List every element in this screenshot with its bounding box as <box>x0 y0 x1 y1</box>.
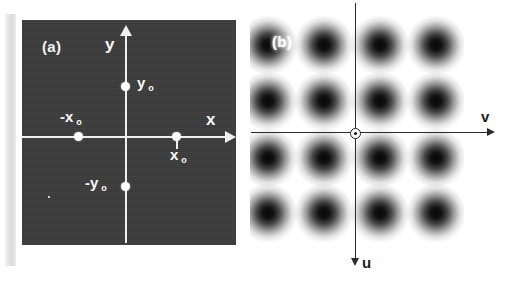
film-speck <box>48 196 50 198</box>
data-point-label-negative-x-zero-subscript: o <box>76 117 82 127</box>
panel-b-u-axis-label: u <box>362 254 371 271</box>
data-point-label-negative-y-zero-base: -y <box>85 174 98 191</box>
data-point-label-negative-y-zero: -yo <box>85 174 104 191</box>
panel-b-v-axis-label: v <box>481 108 489 125</box>
panel-a-x-axis-arrow-icon <box>225 131 236 143</box>
panel-a-object-plane: (a) x y xo -xo yo -yo <box>22 20 236 245</box>
data-point-label-x-zero: xo <box>170 146 184 163</box>
data-point-label-y-zero-base: y <box>137 74 145 91</box>
data-point-negative-x-zero <box>74 132 83 141</box>
panel-b-v-axis-arrow-icon <box>487 128 495 136</box>
data-point-label-y-zero-subscript: o <box>148 83 154 93</box>
panel-a-y-axis-line <box>125 35 127 243</box>
data-point-label-negative-x-zero: -xo <box>60 108 79 125</box>
data-point-y-zero <box>121 82 130 91</box>
panel-b-origin-marker <box>350 128 361 139</box>
panel-a-y-axis-arrow-icon <box>120 25 132 36</box>
data-point-label-y-zero: yo <box>137 74 151 91</box>
panel-b-v-axis-line <box>251 132 490 133</box>
data-point-negative-y-zero <box>121 182 130 191</box>
panel-b-u-axis-arrow-icon <box>351 258 359 266</box>
scan-artifact-strip <box>5 14 16 266</box>
panel-a-y-axis-label: y <box>105 35 114 55</box>
figure-container: (a) x y xo -xo yo -yo (b) v u <box>0 0 508 281</box>
panel-b-label: (b) <box>272 33 292 50</box>
data-point-label-negative-x-zero-base: -x <box>60 108 73 125</box>
data-point-label-x-zero-base: x <box>170 146 178 163</box>
data-point-label-x-zero-subscript: o <box>181 155 187 165</box>
panel-a-label: (a) <box>42 38 61 55</box>
data-point-label-negative-y-zero-subscript: o <box>101 183 107 193</box>
panel-a-x-axis-label: x <box>206 110 215 130</box>
